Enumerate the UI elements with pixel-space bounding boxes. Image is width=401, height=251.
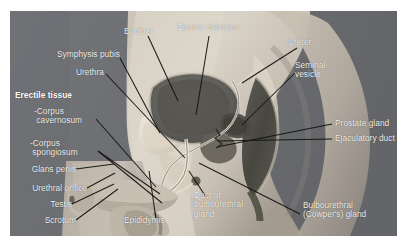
label-ureter[interactable]: Ureter <box>288 38 311 47</box>
anatomy-figure: Bladder Ductus deferens Ureter Seminal v… <box>0 0 401 251</box>
label-erectile-tissue: Erectile tissue <box>15 91 72 100</box>
label-prostate-gland[interactable]: Prostate gland <box>335 119 389 128</box>
label-glans-penis[interactable]: Glans penis <box>10 165 76 174</box>
label-ductus-deferens[interactable]: Ductus deferens <box>178 23 239 32</box>
label-symphysis-pubis[interactable]: Symphysis pubis <box>32 50 120 59</box>
label-corpus-spongiosum[interactable]: -Corpus spongiosum <box>30 139 78 158</box>
figure-caption <box>11 241 261 250</box>
label-scrotum[interactable]: Scrotum <box>10 216 76 225</box>
label-urethral-orifice[interactable]: Urethral orifice <box>10 184 87 193</box>
label-seminal-vesicle[interactable]: Seminal vesicle <box>295 61 325 80</box>
label-urethra[interactable]: Urethra <box>32 68 104 77</box>
anatomy-illustration: Bladder Ductus deferens Ureter Seminal v… <box>10 11 397 236</box>
label-testis[interactable]: Testis <box>10 200 72 209</box>
label-duct-of-bulbourethral-gland[interactable]: Duct of bulbourethral gland <box>194 191 243 219</box>
label-bladder[interactable]: Bladder <box>124 27 153 36</box>
label-corpus-cavernosum[interactable]: -Corpus cavernosum <box>34 107 82 126</box>
label-ejaculatory-duct[interactable]: Ejaculatory duct <box>335 134 395 143</box>
label-epididymis[interactable]: Epididymis <box>124 216 165 225</box>
label-bulbourethral-gland[interactable]: Bulbourethral (Cowper's) gland <box>303 201 366 220</box>
